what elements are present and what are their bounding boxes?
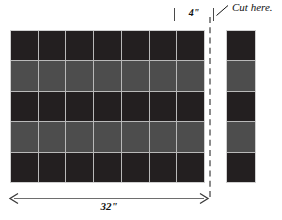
tile (39, 31, 66, 60)
tile (150, 122, 177, 151)
tile (11, 122, 38, 151)
tile (122, 61, 149, 90)
tile (94, 61, 121, 90)
leader-line-icon (216, 5, 229, 16)
tile (227, 122, 255, 151)
tile (66, 153, 93, 182)
tile (150, 31, 177, 60)
tile (122, 31, 149, 60)
tile (94, 153, 121, 182)
cut-here-label: Cut here. (232, 1, 273, 13)
tile (177, 122, 204, 151)
tile (39, 61, 66, 90)
cut-strip-grid (227, 31, 255, 182)
main-tile-grid (11, 31, 204, 182)
diagram-canvas: 4" Cut here. (0, 0, 282, 220)
tile (66, 31, 93, 60)
tile (227, 31, 255, 60)
main-tile-panel (10, 30, 205, 183)
tile (177, 31, 204, 60)
strip-width-dimension: 4" (174, 8, 214, 24)
tile (94, 92, 121, 121)
tile (11, 31, 38, 60)
tile (39, 92, 66, 121)
tile (122, 153, 149, 182)
tile (150, 153, 177, 182)
tile (227, 153, 255, 182)
tile (150, 61, 177, 90)
tile (227, 61, 255, 90)
cut-here-callout: Cut here. (216, 1, 282, 19)
tile (11, 153, 38, 182)
tile (150, 92, 177, 121)
overall-width-dimension: 32" (8, 192, 210, 216)
tile (66, 92, 93, 121)
tile (227, 92, 255, 121)
strip-width-label: 4" (174, 7, 214, 18)
tile (94, 31, 121, 60)
tile (122, 122, 149, 151)
overall-width-label: 32" (8, 200, 210, 212)
tile (11, 92, 38, 121)
tile (66, 61, 93, 90)
tile (66, 122, 93, 151)
tile (11, 61, 38, 90)
cut-line (209, 17, 211, 197)
cut-strip-panel (226, 30, 256, 183)
tile (39, 153, 66, 182)
tile (177, 153, 204, 182)
tile (94, 122, 121, 151)
tile (39, 122, 66, 151)
tile (177, 92, 204, 121)
tile (177, 61, 204, 90)
tile (122, 92, 149, 121)
